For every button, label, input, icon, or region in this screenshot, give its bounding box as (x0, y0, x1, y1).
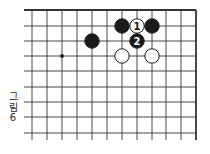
black-stone (85, 34, 99, 48)
black-stone (115, 19, 129, 33)
white-stone (145, 49, 159, 63)
white-stone (115, 49, 129, 63)
stone-move-number: 1 (134, 21, 141, 32)
white-stone: 1 (130, 19, 144, 33)
star-points (60, 54, 64, 58)
go-board-diagram: 12 (0, 0, 210, 154)
black-stone (145, 19, 159, 33)
star-point (60, 54, 64, 58)
stone-move-number: 2 (134, 36, 141, 47)
board-grid (24, 10, 196, 140)
caption-number: 6 (6, 113, 20, 124)
figure-caption: 그 림 6 (6, 92, 20, 124)
black-stone: 2 (130, 34, 144, 48)
caption-char-1: 그 (6, 92, 20, 103)
